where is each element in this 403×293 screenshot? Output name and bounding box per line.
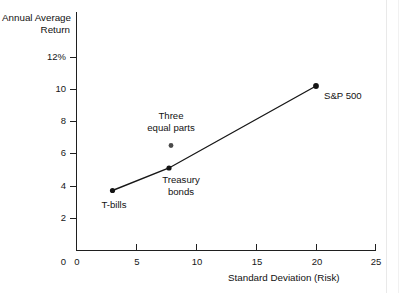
page-edge-line-outer bbox=[398, 0, 399, 293]
annotation-tbills: T-bills bbox=[84, 199, 144, 211]
x-axis-ticks bbox=[137, 244, 376, 251]
y-tick-label-10: 10 bbox=[26, 83, 66, 94]
annotation-sp500: S&P 500 bbox=[324, 90, 384, 102]
y-tick-label-4: 4 bbox=[26, 180, 66, 191]
page-edge-line bbox=[386, 0, 387, 293]
y-tick-label-2: 2 bbox=[26, 212, 66, 223]
data-point-three-equal-parts bbox=[169, 143, 174, 148]
data-point-treasury-bonds bbox=[166, 165, 171, 170]
x-tick-label-5: 5 bbox=[121, 256, 153, 267]
y-tick-label-6: 6 bbox=[26, 147, 66, 158]
annotation-treasury-bonds-line2: bonds bbox=[146, 186, 216, 198]
x-tick-label-10: 10 bbox=[181, 256, 213, 267]
x-tick-label-15: 15 bbox=[241, 256, 273, 267]
data-point-sp500 bbox=[313, 83, 319, 89]
y-tick-label-12: 12% bbox=[26, 51, 66, 62]
x-axis-title: Standard Deviation (Risk) bbox=[228, 272, 340, 284]
y-axis-title-line2: Return bbox=[2, 24, 70, 36]
y-axis-title: Annual Average Return bbox=[2, 12, 70, 36]
annotation-three-equal-parts-line2: equal parts bbox=[131, 122, 211, 134]
annotation-three-equal-parts: Three equal parts bbox=[131, 110, 211, 133]
annotation-treasury-bonds-line1: Treasury bbox=[146, 174, 216, 186]
x-tick-label-0: 0 bbox=[61, 256, 93, 267]
y-tick-label-0: 0 bbox=[26, 256, 66, 267]
annotation-treasury-bonds: Treasury bonds bbox=[146, 174, 216, 197]
chart-container: Annual Average Return Standard Deviation… bbox=[0, 0, 403, 293]
y-axis-ticks bbox=[70, 58, 77, 219]
y-tick-label-8: 8 bbox=[26, 115, 66, 126]
data-point-tbills bbox=[110, 188, 115, 193]
x-tick-label-25: 25 bbox=[360, 256, 392, 267]
x-tick-label-20: 20 bbox=[301, 256, 333, 267]
annotation-three-equal-parts-line1: Three bbox=[131, 110, 211, 122]
y-axis-title-line1: Annual Average bbox=[2, 12, 70, 24]
